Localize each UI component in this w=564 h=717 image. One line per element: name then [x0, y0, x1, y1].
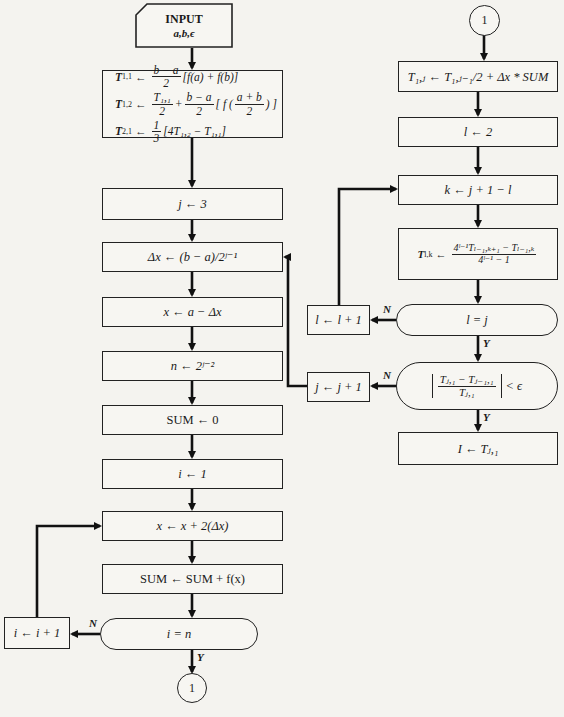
fraction: 4ˡ⁻¹Tₗ₋₁,ₖ₊₁ − Tₗ₋₁,ₖ4ˡ⁻¹ − 1	[452, 243, 537, 265]
t11-symbol: T	[115, 71, 122, 83]
frac-den: 2	[161, 77, 171, 89]
assign-arrow: ←	[135, 125, 147, 137]
connector-out-1: 1	[177, 673, 207, 703]
t1j-node: T₁,ⱼ ← T₁,ⱼ₋₁/2 + Δx * SUM	[398, 61, 558, 92]
decision-convergence: Tⱼ,₁ − Tⱼ₋₁,₁Tⱼ,₁ < ϵ	[396, 362, 558, 410]
less-than-epsilon: < ϵ	[506, 379, 523, 394]
l-increment-node: l ← l + 1	[307, 305, 370, 335]
result-node: I ← Tⱼ,₁	[398, 432, 558, 465]
init-line-1-rest: [f(a) + f(b)]	[183, 71, 239, 83]
init-line-3: T2,1 ← 13 [4T₁,₂ − T₁,₁]	[115, 119, 226, 144]
assign-arrow: ←	[436, 248, 447, 260]
label-no-l: N	[383, 303, 391, 315]
frac-num: a + b	[235, 91, 264, 104]
t12-symbol: T	[115, 98, 122, 110]
input-node: INPUT a,b,ϵ	[135, 3, 233, 48]
x-step-node: x ← x + 2(Δx)	[102, 511, 283, 541]
assign-arrow: ←	[135, 71, 147, 83]
t12-sub: 1,2	[122, 100, 132, 109]
frac-num: b − a	[185, 91, 214, 104]
init-line-1: T1,1 ← b − a2 [f(a) + f(b)]	[115, 64, 238, 89]
decision-i-equals-n: i = n	[100, 618, 258, 650]
fraction: 13	[152, 119, 162, 144]
frac-num: 1	[152, 119, 162, 132]
label-no-i: N	[89, 617, 97, 629]
n-init-node: n ← 2ʲ⁻²	[102, 351, 283, 381]
label-yes-conv: Y	[483, 411, 490, 423]
frac-den: 2	[157, 105, 167, 117]
label-yes-l: Y	[483, 337, 490, 349]
tlk-extrapolation-node: Tl,k ← 4ˡ⁻¹Tₗ₋₁,ₖ₊₁ − Tₗ₋₁,ₖ4ˡ⁻¹ − 1	[398, 228, 558, 280]
frac-num: T₁,₁	[152, 91, 173, 104]
sum-init-node: SUM ← 0	[102, 405, 283, 435]
l-init-node: l ← 2	[398, 117, 558, 147]
frac-den: 3	[152, 132, 162, 144]
tlk-sub: l,k	[424, 250, 432, 259]
sum-step-node: SUM ← SUM + f(x)	[102, 564, 283, 594]
plus-sign: +	[175, 98, 183, 110]
label-yes-i: Y	[197, 651, 204, 663]
t11-sub: 1,1	[122, 72, 132, 81]
abs-value: Tⱼ,₁ − Tⱼ₋₁,₁Tⱼ,₁	[432, 374, 502, 398]
bracket-close: ) ]	[266, 98, 277, 110]
decision-l-equals-j: l = j	[396, 304, 558, 336]
fraction: T₁,₁2	[152, 91, 173, 116]
frac-num: 4ˡ⁻¹Tₗ₋₁,ₖ₊₁ − Tₗ₋₁,ₖ	[452, 243, 537, 255]
frac-num: Tⱼ,₁ − Tⱼ₋₁,₁	[438, 374, 496, 387]
init-line-2: T1,2 ← T₁,₁2 + b − a2 [ f ( a + b2 ) ]	[115, 91, 277, 116]
frac-den: Tⱼ,₁	[457, 387, 477, 399]
label-no-conv: N	[383, 369, 391, 381]
i-increment-node: i ← i + 1	[4, 617, 70, 649]
tlk-symbol: T	[418, 248, 425, 260]
t21-symbol: T	[115, 125, 122, 137]
fraction: b − a2	[185, 91, 214, 116]
fraction: Tⱼ,₁ − Tⱼ₋₁,₁Tⱼ,₁	[438, 374, 496, 398]
input-params: a,b,ϵ	[173, 27, 194, 39]
i-init-node: i ← 1	[102, 459, 283, 489]
frac-den: 2	[194, 105, 204, 117]
k-assign-node: k ← j + 1 − l	[398, 175, 558, 205]
frac-den: 2	[244, 105, 254, 117]
connector-in-1: 1	[469, 5, 500, 36]
init-line-3-rest: [4T₁,₂ − T₁,₁]	[163, 125, 226, 137]
init-trapezoid-node: T1,1 ← b − a2 [f(a) + f(b)] T1,2 ← T₁,₁2…	[102, 70, 283, 138]
bracket-open: [ f (	[216, 98, 233, 110]
frac-den: 4ˡ⁻¹ − 1	[476, 255, 511, 266]
fraction: a + b2	[235, 91, 264, 116]
x-init-node: x ← a − Δx	[102, 297, 283, 327]
frac-num: b − a	[152, 64, 181, 77]
input-heading: INPUT	[165, 12, 202, 27]
dx-node: Δx ← (b − a)/2ʲ⁻¹	[102, 242, 283, 272]
t21-sub: 2,1	[122, 127, 132, 136]
assign-arrow: ←	[135, 98, 147, 110]
fraction: b − a2	[152, 64, 181, 89]
j-init-node: j ← 3	[102, 188, 283, 220]
j-increment-node: j ← j + 1	[307, 372, 370, 402]
